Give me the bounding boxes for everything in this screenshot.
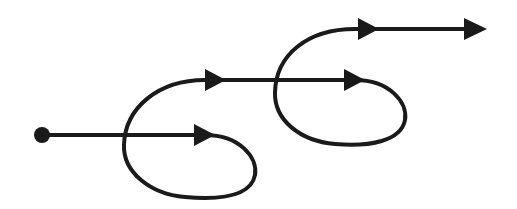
arrowhead-icon-3 — [344, 69, 365, 91]
loop-1 — [124, 80, 255, 198]
loop-2 — [275, 29, 405, 145]
start-point-dot — [34, 127, 50, 143]
diagram-canvas: Looping trajectory diagram — [0, 0, 517, 209]
arrowhead-icon-4 — [358, 18, 379, 40]
arrowhead-icon-5 — [464, 18, 487, 40]
trajectory-diagram — [0, 0, 517, 209]
arrowhead-icon-1 — [194, 124, 215, 146]
arrowhead-icon-2 — [205, 69, 226, 91]
